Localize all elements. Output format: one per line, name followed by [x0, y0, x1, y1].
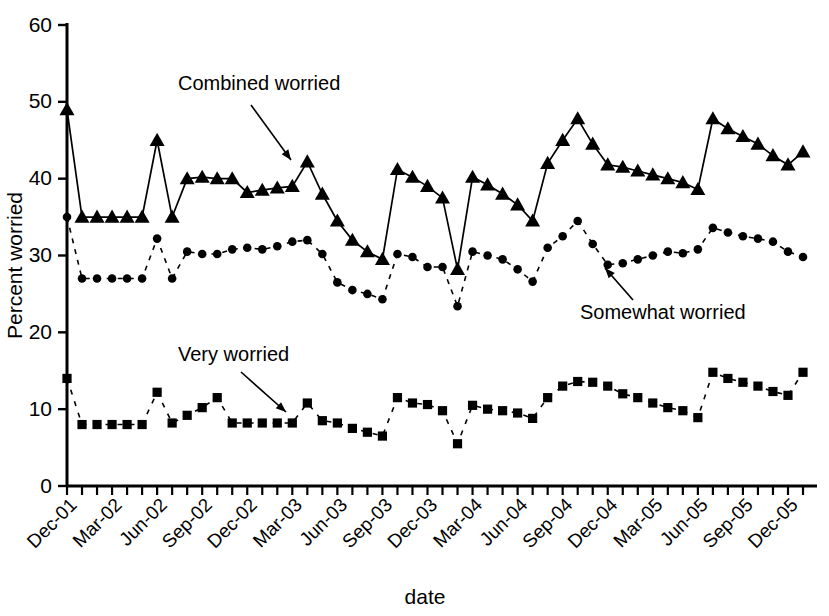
data-point-square: [122, 420, 131, 429]
data-point-circle: [739, 232, 748, 241]
data-point-circle: [603, 260, 612, 269]
x-axis-label-group: Dec-05: [744, 494, 802, 552]
data-point-triangle: [585, 137, 600, 150]
arrow-head: [282, 149, 291, 160]
x-axis-label-group: Mar-04: [429, 494, 487, 552]
data-point-square: [753, 382, 762, 391]
data-point-circle: [573, 217, 582, 226]
data-point-circle: [769, 237, 778, 246]
data-point-square: [618, 389, 627, 398]
data-point-square: [528, 414, 537, 423]
data-point-square: [348, 424, 357, 433]
data-point-circle: [123, 274, 132, 283]
series-somewhat-worried: [63, 213, 808, 311]
data-point-circle: [228, 245, 237, 254]
data-point-square: [153, 388, 162, 397]
data-point-square: [258, 418, 267, 427]
data-point-circle: [303, 236, 312, 245]
data-point-circle: [378, 295, 387, 304]
data-point-circle: [588, 240, 597, 249]
x-axis-tick-label: Dec-03: [383, 494, 441, 552]
data-point-circle: [108, 274, 117, 283]
data-point-triangle: [60, 102, 75, 115]
data-point-circle: [93, 274, 102, 283]
data-point-triangle: [705, 111, 720, 124]
x-axis-tick-label: Mar-02: [69, 494, 126, 551]
data-point-triangle: [765, 148, 780, 161]
data-point-square: [62, 374, 71, 383]
data-point-triangle: [480, 177, 495, 190]
x-axis-label-group: Dec-02: [203, 494, 261, 552]
annotation-arrow-very-worried: [241, 372, 286, 412]
data-point-square: [303, 398, 312, 407]
data-point-circle: [799, 253, 808, 262]
y-axis-tick-label: 20: [29, 320, 52, 343]
y-axis-title: Percent worried: [3, 192, 26, 339]
data-point-circle: [784, 247, 793, 256]
data-point-square: [723, 374, 732, 383]
series-very-worried: [62, 368, 807, 449]
series-line: [67, 372, 803, 443]
data-point-circle: [498, 255, 507, 264]
data-point-circle: [408, 253, 417, 262]
data-point-circle: [679, 249, 688, 258]
data-point-circle: [183, 247, 192, 256]
data-point-circle: [724, 228, 733, 237]
x-axis-label-group: Sep-05: [699, 494, 757, 552]
data-point-square: [77, 420, 86, 429]
data-point-square: [498, 406, 507, 415]
data-point-triangle: [165, 210, 180, 223]
data-point-circle: [618, 259, 627, 268]
x-axis-label-group: Sep-02: [158, 494, 216, 552]
x-axis-tick-label: Sep-05: [699, 494, 757, 552]
x-axis-tick-label: Mar-03: [249, 494, 306, 551]
data-point-square: [363, 428, 372, 437]
data-point-square: [243, 418, 252, 427]
data-point-square: [768, 387, 777, 396]
data-point-triangle: [750, 137, 765, 150]
data-point-square: [798, 368, 807, 377]
data-point-square: [318, 416, 327, 425]
data-point-triangle: [390, 162, 405, 175]
data-point-circle: [63, 213, 72, 222]
x-axis-tick-label: Dec-01: [23, 494, 81, 552]
x-axis-label-group: Dec-03: [383, 494, 441, 552]
data-point-square: [663, 403, 672, 412]
y-axis-tick-label: 50: [29, 89, 52, 112]
data-point-square: [378, 431, 387, 440]
data-point-circle: [333, 278, 342, 287]
data-point-triangle: [540, 156, 555, 169]
data-point-triangle: [225, 171, 240, 184]
y-axis-tick-label: 60: [29, 13, 52, 36]
data-point-square: [408, 398, 417, 407]
data-point-circle: [288, 237, 297, 246]
data-point-square: [198, 403, 207, 412]
data-point-circle: [633, 255, 642, 264]
x-axis-label-group: Sep-03: [338, 494, 396, 552]
data-point-triangle: [330, 213, 345, 226]
x-axis-label-group: Sep-04: [518, 494, 576, 552]
data-point-square: [213, 393, 222, 402]
data-point-square: [678, 406, 687, 415]
y-axis-tick-label: 30: [29, 243, 52, 266]
x-axis-title: date: [405, 585, 446, 608]
data-point-circle: [483, 251, 492, 260]
x-axis-tick-label: Sep-02: [158, 494, 216, 552]
data-point-square: [468, 401, 477, 410]
annotation-arrow-somewhat-worried: [605, 268, 633, 300]
data-point-triangle: [285, 179, 300, 192]
data-point-triangle: [135, 210, 150, 223]
data-point-circle: [153, 234, 162, 243]
data-point-triangle: [600, 157, 615, 170]
data-point-circle: [348, 286, 357, 295]
x-axis-label-group: Mar-03: [249, 494, 306, 551]
data-point-circle: [363, 290, 372, 299]
data-point-triangle: [420, 179, 435, 192]
data-point-triangle: [796, 144, 811, 157]
data-point-square: [333, 418, 342, 427]
worry-trend-line-chart: 0102030405060Dec-01Mar-02Jun-02Sep-02Dec…: [0, 0, 829, 616]
data-point-circle: [273, 242, 282, 251]
x-axis-label-group: Dec-04: [563, 494, 621, 552]
data-point-square: [393, 393, 402, 402]
data-point-square: [438, 406, 447, 415]
